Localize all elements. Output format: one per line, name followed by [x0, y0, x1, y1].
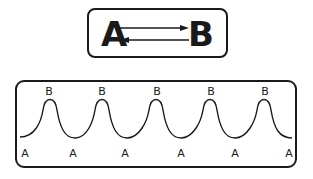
peak-label: B	[153, 86, 161, 98]
species-b-label: B	[188, 15, 214, 53]
peak-label: B	[98, 86, 106, 98]
trough-label: A	[231, 148, 239, 160]
peak-label: B	[261, 86, 269, 98]
trough-label: A	[177, 148, 185, 160]
peak-label: B	[45, 86, 53, 98]
trough-label: A	[285, 148, 293, 160]
peak-label: B	[207, 86, 215, 98]
trough-label: A	[69, 148, 77, 160]
trough-label: A	[121, 148, 129, 160]
trough-label: A	[21, 148, 29, 160]
equilibrium-box: A B	[87, 8, 228, 58]
oscillation-box: B B B B B A A A A A A	[15, 80, 297, 168]
